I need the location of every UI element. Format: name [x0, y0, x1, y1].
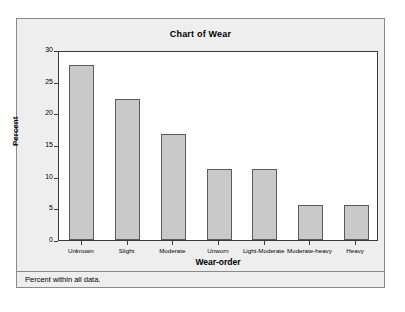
y-tick-label: 20 — [45, 109, 53, 116]
x-tick-label-unknown: Unknown — [68, 247, 94, 254]
x-tick-mark — [127, 241, 128, 245]
y-tick-label: 10 — [45, 173, 53, 180]
bar-light-moderate — [252, 169, 277, 240]
footnote-text: Percent within all data. — [25, 275, 100, 284]
bar-moderate-heavy — [298, 205, 323, 240]
x-tick-mark — [218, 241, 219, 245]
y-axis: Percent 051015202530 — [17, 51, 58, 241]
x-tick-label-unworn: Unworn — [207, 247, 228, 254]
y-tick-label: 0 — [49, 236, 53, 243]
x-axis-title: Wear-order — [58, 257, 378, 267]
x-tick-mark — [81, 241, 82, 245]
y-tick-label: 25 — [45, 78, 53, 85]
bar-moderate — [161, 134, 186, 240]
plot-area — [58, 51, 378, 241]
bar-unworn — [207, 169, 232, 240]
x-tick-label-moderate-heavy: Moderate-heavy — [287, 247, 332, 254]
x-tick-mark — [264, 241, 265, 245]
x-tick-mark — [172, 241, 173, 245]
chart-title: Chart of Wear — [17, 29, 384, 39]
x-tick-mark — [309, 241, 310, 245]
bar-unknown — [69, 65, 94, 240]
y-axis-title: Percent — [11, 117, 20, 146]
bar-slight — [115, 99, 140, 240]
chart-window: Chart of Wear Percent 051015202530 Unkno… — [0, 0, 405, 312]
bar-heavy — [344, 205, 369, 240]
graph-frame: Chart of Wear Percent 051015202530 Unkno… — [16, 18, 385, 288]
x-tick-label-slight: Slight — [119, 247, 134, 254]
y-tick-label: 15 — [45, 141, 53, 148]
x-tick-mark — [355, 241, 356, 245]
bars-layer — [59, 52, 377, 240]
y-tick-label: 30 — [45, 46, 53, 53]
x-tick-label-heavy: Heavy — [346, 247, 364, 254]
x-tick-label-light-moderate: Light-Moderate — [243, 247, 285, 254]
x-tick-label-moderate: Moderate — [159, 247, 185, 254]
footnote-divider — [17, 271, 384, 272]
y-tick-label: 5 — [49, 204, 53, 211]
